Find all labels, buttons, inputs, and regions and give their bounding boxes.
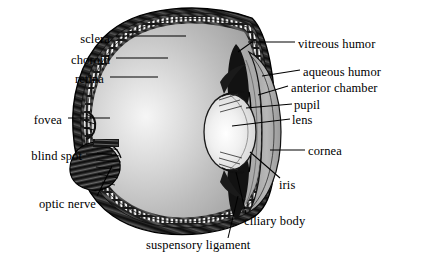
label-optic-nerve: optic nerve [39,198,96,211]
lens-structure [204,94,256,170]
label-choroid: choroid [71,54,110,67]
label-anterior-chamber: anterior chamber [291,82,378,95]
label-blind-spot: blind spot [31,150,82,163]
label-aqueous-humor: aqueous humor [303,66,381,79]
label-suspensory-ligament: suspensory ligament [146,239,250,252]
label-vitreous-humor: vitreous humor [298,38,375,51]
label-cornea: cornea [308,145,342,158]
label-retina: retina [75,73,104,86]
label-lens: lens [292,114,313,127]
label-pupil: pupil [294,99,320,112]
label-fovea: fovea [34,114,62,127]
label-iris: iris [279,179,295,192]
label-sclera: sclera [80,33,110,46]
label-ciliary-body: ciliary body [244,215,305,228]
eye-anatomy-figure: sclera choroid retina fovea blind spot o… [0,0,440,265]
